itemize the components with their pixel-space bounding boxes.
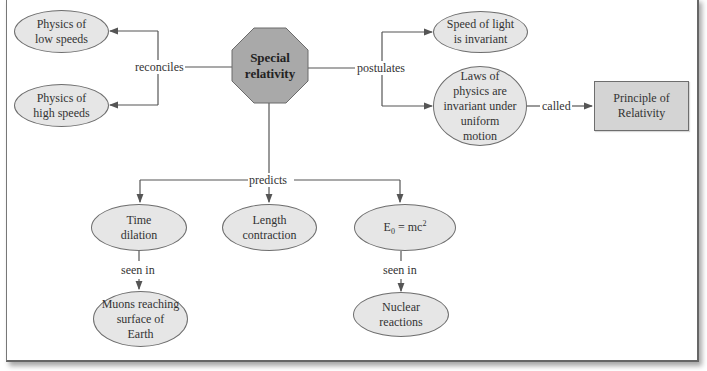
link-label-seen-in-left: seen in [120,263,156,277]
node-text: Muons reaching [102,297,180,311]
central-label-2: relativity [245,66,295,81]
link-label-postulates: postulates [356,61,406,75]
node-text: invariant under [444,99,517,113]
node-text: Principle of [613,91,669,105]
node-text: low speeds [35,32,88,46]
node-text: Nuclear [382,300,420,314]
node-text: surface of [117,312,165,326]
link-label-reconciles: reconciles [134,60,185,74]
node-text: = mc [395,220,422,234]
node-text: high speeds [33,106,89,120]
time-dilation-node: Timedilation [91,204,187,251]
muons-node: Muons reachingsurface ofEarth [93,291,188,347]
physics-low-speeds-node: Physics oflow speeds [14,10,109,53]
node-text: contraction [243,228,297,242]
node-text: Physics of [37,91,87,105]
node-text: E [384,220,391,234]
link-label-predicts: predicts [248,173,288,187]
superscript: 2 [422,219,426,228]
node-text: motion [463,129,497,143]
length-contraction-node: Lengthcontraction [222,204,317,251]
node-text: physics are [453,84,507,98]
principle-of-relativity-node: Principle ofRelativity [594,81,689,131]
central-label-1: Special [250,50,290,65]
node-text: Length [252,213,286,227]
special-relativity-node: Specialrelativity [232,28,308,103]
node-text: Speed of light [447,17,514,31]
node-text: Relativity [618,106,665,120]
nuclear-reactions-node: Nuclearreactions [353,292,449,337]
node-text: is invariant [454,32,508,46]
link-label-seen-in-right: seen in [382,263,418,277]
laws-of-physics-node: Laws ofphysics areinvariant underuniform… [433,66,527,146]
node-text: Laws of [460,69,499,83]
node-text: Earth [128,327,154,341]
speed-of-light-node: Speed of lightis invariant [433,11,528,53]
energy-equation-node: E0 = mc2 [354,204,456,251]
node-text: dilation [121,228,158,242]
physics-high-speeds-node: Physics ofhigh speeds [14,84,109,127]
node-text: uniform [461,114,500,128]
node-text: reactions [379,315,422,329]
node-text: Physics of [37,17,87,31]
link-label-called: called [541,99,572,113]
node-text: Time [127,213,152,227]
